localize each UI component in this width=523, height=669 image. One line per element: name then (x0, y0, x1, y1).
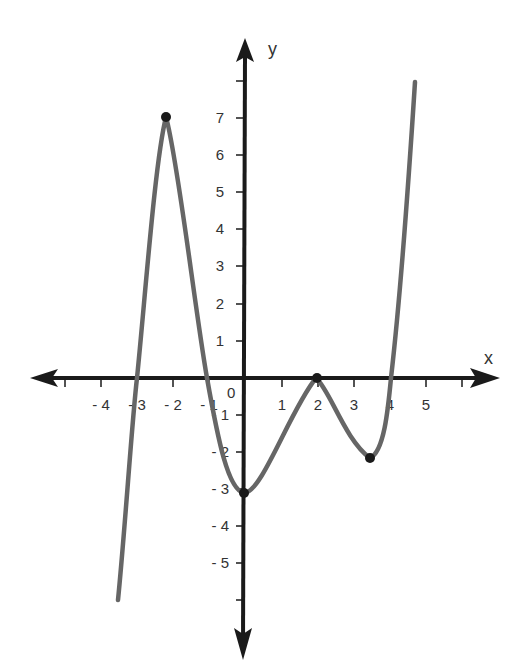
y-tick-labels: 7 6 5 4 3 2 1 0 - 1 - 2 - 3 - 4 - 5 (211, 109, 235, 571)
x-tick-label: 1 (278, 396, 286, 413)
local-max-point (161, 112, 171, 122)
x-tick-label: - 4 (92, 396, 110, 413)
x-tick-label: - 2 (164, 396, 182, 413)
y-tick-label: - 3 (211, 480, 229, 497)
y-axis (234, 38, 254, 660)
y-tick-label: 5 (216, 183, 224, 200)
y-tick-label: 7 (216, 109, 224, 126)
x-tick-label: 2 (314, 396, 322, 413)
origin-label: 0 (227, 384, 235, 401)
y-tick-label: 2 (216, 295, 224, 312)
y-tick-label: 6 (216, 146, 224, 163)
y-tick-label: 3 (216, 257, 224, 274)
local-min-point (239, 488, 249, 498)
function-curve (118, 82, 415, 600)
y-axis-label: y (268, 39, 277, 59)
marked-points (161, 112, 375, 498)
y-tick-label: 4 (216, 220, 224, 237)
y-tick-label: - 5 (211, 554, 229, 571)
x-axis-label: x (484, 348, 493, 368)
y-tick-label: - 4 (211, 517, 229, 534)
local-max-point (312, 373, 322, 383)
local-min-point (365, 453, 375, 463)
function-graph: y x 7 6 5 4 3 2 1 0 - 1 - 2 - 3 - 4 - 5 … (0, 0, 523, 669)
x-tick-labels: - 4 - 3 - 2 - 1 1 2 3 4 5 (92, 396, 430, 413)
y-tick-label: 1 (216, 332, 224, 349)
x-tick-label: 5 (422, 396, 430, 413)
x-tick-label: 3 (350, 396, 358, 413)
